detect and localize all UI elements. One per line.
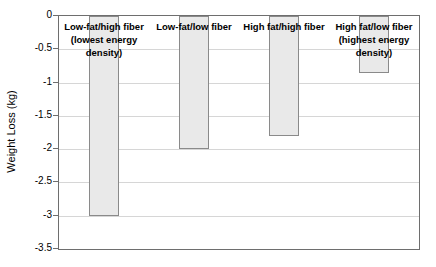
category-label: High fat/low fiber (highest energy densi… bbox=[322, 20, 426, 59]
y-axis-tick bbox=[53, 248, 58, 249]
y-axis-tick bbox=[53, 115, 58, 116]
y-tick-label: -1.5 bbox=[0, 109, 52, 121]
weight-loss-bar-chart: Weight Loss (kg) 0-0.5-1-1.5-2-2.5-3-3.5… bbox=[0, 0, 436, 267]
y-tick-label: -3.5 bbox=[0, 242, 52, 254]
y-axis-tick bbox=[53, 15, 58, 16]
y-axis-tick bbox=[53, 48, 58, 49]
category-label: High fat/high fiber bbox=[232, 20, 336, 33]
bar bbox=[269, 16, 299, 136]
y-axis-tick bbox=[53, 181, 58, 182]
y-tick-label: 0 bbox=[0, 9, 52, 21]
y-tick-label: -3 bbox=[0, 209, 52, 221]
y-tick-label: -2 bbox=[0, 142, 52, 154]
y-axis-tick bbox=[53, 82, 58, 83]
plot-area: Low-fat/high fiber (lowest energy densit… bbox=[58, 15, 420, 250]
y-tick-label: -0.5 bbox=[0, 42, 52, 54]
bar bbox=[179, 16, 209, 149]
y-axis-tick bbox=[53, 215, 58, 216]
category-label: Low-fat/low fiber bbox=[142, 20, 246, 33]
y-tick-label: -1 bbox=[0, 76, 52, 88]
category-label: Low-fat/high fiber (lowest energy densit… bbox=[52, 20, 156, 59]
y-axis: 0-0.5-1-1.5-2-2.5-3-3.5 bbox=[0, 0, 52, 267]
y-axis-tick bbox=[53, 148, 58, 149]
y-tick-label: -2.5 bbox=[0, 175, 52, 187]
